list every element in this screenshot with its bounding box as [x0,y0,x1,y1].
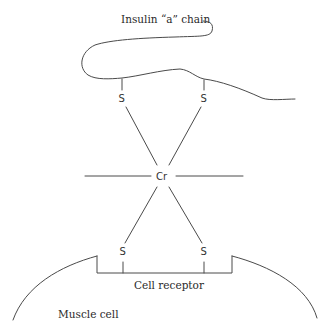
lower-left-sulfur-atom: S [120,246,126,257]
cell-receptor-label: Cell receptor [134,279,205,291]
chromium-insulin-receptor-diagram: Insulin “a” chain S S Cr S S Cell recept… [0,0,325,325]
upper-right-cr-bond [169,107,201,165]
upper-left-cr-bond [126,107,157,165]
upper-left-sulfur-atom: S [119,93,125,104]
cell-receptor-notch [97,256,232,273]
insulin-a-chain-label: Insulin “a” chain [121,13,210,25]
lower-right-cr-bond [169,187,202,243]
chromium-atom: Cr [156,171,168,182]
muscle-cell-label: Muscle cell [58,308,119,320]
upper-right-sulfur-atom: S [201,93,207,104]
lower-right-sulfur-atom: S [201,246,207,257]
lower-left-cr-bond [125,187,157,243]
muscle-cell-membrane-right [232,256,317,318]
insulin-chain-line [82,21,295,100]
